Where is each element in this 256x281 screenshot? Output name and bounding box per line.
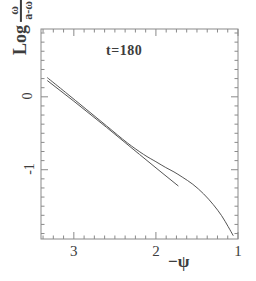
x-tick-label: 3 — [70, 243, 78, 260]
y-tick-label-text: 0 — [20, 92, 36, 99]
y-tick-label: 0 — [24, 88, 31, 104]
x-tick-label: 1 — [234, 243, 242, 260]
plot-annotation: t=180 — [106, 43, 142, 59]
x-axis-label: −ψ — [168, 252, 189, 272]
y-tick-label-text: -1 — [22, 163, 38, 175]
figure-container: Log ω a-ω −ψ t=180 321 0-1 — [0, 0, 256, 281]
y-tick-label: -1 — [24, 161, 36, 177]
x-tick-label: 2 — [152, 243, 160, 260]
